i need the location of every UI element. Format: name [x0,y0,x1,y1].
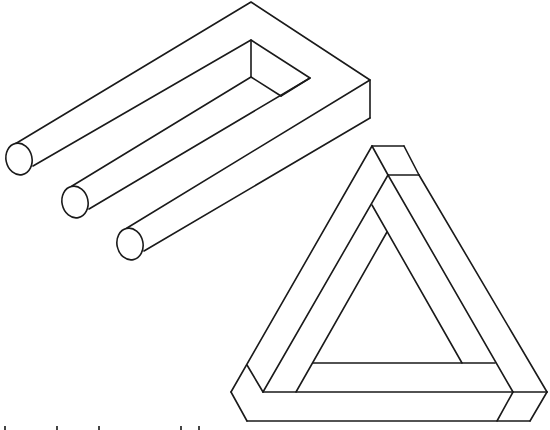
penrose-edge [404,146,419,175]
fork-prong-2-end [59,184,91,221]
caption-clipped [4,424,304,430]
caption-ascender-tops [4,424,304,430]
fork-inner-vertical [251,40,281,96]
penrose-triangle [231,146,547,421]
fork-prong-2-bottom [89,78,310,209]
penrose-edge [231,392,247,421]
penrose-edge [247,365,263,392]
impossible-fork [3,2,370,262]
penrose-edge [388,175,513,392]
penrose-edge [530,392,547,421]
penrose-edge [231,146,372,392]
penrose-edge [263,175,388,392]
fork-prong-1-end [3,141,35,178]
fork-prong-3-bottom [144,118,370,251]
penrose-edge [372,146,388,175]
penrose-edge [372,205,462,363]
penrose-edge [497,392,513,421]
fork-prong-3-end [114,226,146,263]
fork-prong-3-top [127,80,370,228]
figure-canvas [0,0,550,430]
penrose-edge [419,175,547,392]
